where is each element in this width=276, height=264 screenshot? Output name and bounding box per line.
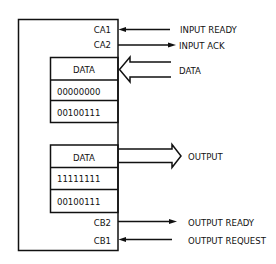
data-in-arrow-icon [120, 57, 172, 82]
ca1-label: CA1 [94, 24, 111, 35]
pia-diagram: CA1 CA2 DATA 00000000 00100111 DATA 1111… [0, 0, 276, 264]
input-ready-label: INPUT READY [180, 24, 237, 35]
input-ack-label: INPUT ACK [179, 40, 225, 51]
output-label: OUTPUT [188, 151, 224, 162]
input-register-row: 00100111 [57, 107, 101, 118]
output-register: DATA 11111111 00100111 [51, 145, 119, 213]
output-ready-label: OUTPUT READY [188, 217, 255, 228]
output-register-row: 11111111 [57, 173, 101, 184]
cb1-label: CB1 [94, 235, 111, 246]
data-out-arrow-icon [119, 145, 182, 168]
input-register-header: DATA [73, 64, 95, 75]
data-in-label: DATA [179, 65, 201, 76]
input-register-row: 00000000 [57, 86, 101, 97]
output-register-row: 00100111 [57, 196, 101, 207]
outer-box [19, 20, 119, 251]
ca2-arrow-icon [118, 43, 176, 48]
cb2-label: CB2 [94, 217, 111, 228]
output-request-label: OUTPUT REQUEST [188, 235, 267, 246]
cb2-arrow-icon [118, 219, 177, 224]
output-register-header: DATA [73, 152, 95, 163]
ca2-label: CA2 [94, 39, 111, 50]
input-register: DATA 00000000 00100111 [51, 58, 119, 123]
ca1-arrow-icon [119, 27, 171, 32]
cb1-arrow-icon [119, 237, 173, 242]
